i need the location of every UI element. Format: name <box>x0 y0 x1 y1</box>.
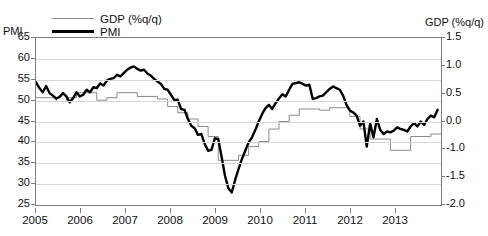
right-tick-mark <box>441 204 445 205</box>
gridline <box>36 184 441 185</box>
chart-container: PMI GDP (%q/q) GDP (%q/q) PMI 6560555045… <box>0 0 488 236</box>
x-tick-label: 2008 <box>145 214 195 226</box>
right-tick-label: -2.0 <box>446 197 465 209</box>
x-tick-label: 2010 <box>235 214 285 226</box>
right-tick-mark <box>441 65 445 66</box>
right-tick-mark <box>441 121 445 122</box>
legend-label-gdp: GDP (%q/q) <box>100 13 162 25</box>
x-tick-label: 2011 <box>280 214 330 226</box>
x-tick-label: 2012 <box>325 214 375 226</box>
left-tick-mark <box>31 183 35 184</box>
right-tick-label: 1.0 <box>446 58 461 70</box>
right-tick-label: 1.5 <box>446 30 461 42</box>
left-tick-mark <box>31 79 35 80</box>
left-tick-label: 30 <box>4 176 30 188</box>
gridline <box>36 163 441 164</box>
x-tick-mark <box>170 208 171 213</box>
left-tick-label: 45 <box>4 114 30 126</box>
left-tick-label: 60 <box>4 51 30 63</box>
left-tick-label: 40 <box>4 134 30 146</box>
legend-swatch-pmi-icon <box>52 30 94 33</box>
x-tick-mark <box>350 208 351 213</box>
x-tick-mark <box>395 208 396 213</box>
right-tick-label: -1.0 <box>446 141 465 153</box>
gridline <box>36 59 441 60</box>
x-tick-label: 2009 <box>190 214 240 226</box>
gridline <box>36 101 441 102</box>
left-tick-mark <box>31 204 35 205</box>
x-tick-label: 2013 <box>370 214 420 226</box>
legend-swatch-gdp-icon <box>52 18 94 19</box>
x-tick-mark <box>35 208 36 213</box>
left-tick-label: 25 <box>4 197 30 209</box>
x-tick-label: 2005 <box>10 214 60 226</box>
gridline <box>36 122 441 123</box>
right-tick-mark <box>441 37 445 38</box>
chart-legend: GDP (%q/q) PMI <box>52 12 162 38</box>
right-tick-label: -1.5 <box>446 169 465 181</box>
left-tick-label: 50 <box>4 93 30 105</box>
left-tick-mark <box>31 121 35 122</box>
series-line-pmi <box>36 66 438 192</box>
legend-item-gdp: GDP (%q/q) <box>52 12 162 25</box>
left-tick-label: 35 <box>4 155 30 167</box>
left-tick-mark <box>31 141 35 142</box>
left-tick-label: 65 <box>4 30 30 42</box>
left-tick-label: 55 <box>4 72 30 84</box>
right-tick-label: 0.5 <box>446 86 461 98</box>
right-axis-title: GDP (%q/q) <box>425 16 484 28</box>
right-tick-mark <box>441 148 445 149</box>
gridline <box>36 142 441 143</box>
x-tick-mark <box>125 208 126 213</box>
left-tick-mark <box>31 58 35 59</box>
legend-label-pmi: PMI <box>100 26 120 38</box>
left-tick-mark <box>31 100 35 101</box>
x-tick-mark <box>80 208 81 213</box>
right-tick-label: 0.0 <box>446 114 461 126</box>
left-tick-mark <box>31 37 35 38</box>
plot-area <box>35 37 442 206</box>
right-tick-mark <box>441 93 445 94</box>
x-tick-label: 2006 <box>55 214 105 226</box>
x-tick-mark <box>260 208 261 213</box>
x-tick-mark <box>215 208 216 213</box>
gridline <box>36 80 441 81</box>
right-tick-mark <box>441 176 445 177</box>
x-tick-label: 2007 <box>100 214 150 226</box>
x-tick-mark <box>305 208 306 213</box>
left-tick-mark <box>31 162 35 163</box>
